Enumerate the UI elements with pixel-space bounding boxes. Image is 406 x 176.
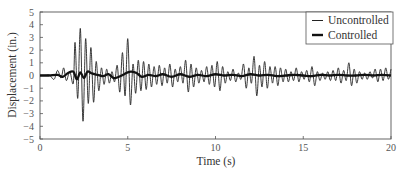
y-tick-label: 3 — [29, 32, 34, 43]
y-tick-label: −2 — [23, 95, 34, 106]
y-tick-label: 5 — [29, 7, 34, 18]
chart-canvas: 543210−1−2−3−4−5 05101520 Displacement (… — [0, 0, 406, 176]
x-tick-label: 15 — [298, 142, 308, 153]
y-tick-label: 1 — [29, 57, 34, 68]
x-tick-label: 10 — [211, 142, 221, 153]
legend: Uncontrolled Controlled — [306, 12, 393, 44]
y-tick-label: 4 — [29, 19, 34, 30]
y-tick-label: 2 — [29, 45, 34, 56]
y-tick-label: −4 — [23, 121, 34, 132]
legend-label-controlled: Controlled — [328, 29, 377, 41]
y-axis-label: Displacement (in.) — [6, 32, 19, 118]
y-tick-label: −3 — [23, 108, 34, 119]
x-tick-label: 5 — [125, 142, 130, 153]
x-axis-label: Time (s) — [197, 155, 236, 168]
y-tick-label: −1 — [23, 83, 34, 94]
legend-label-uncontrolled: Uncontrolled — [328, 14, 389, 26]
displacement-chart: 543210−1−2−3−4−5 05101520 Displacement (… — [0, 0, 406, 176]
x-tick-label: 20 — [386, 142, 396, 153]
y-tick-label: −5 — [23, 134, 34, 145]
x-tick-label: 0 — [38, 142, 43, 153]
y-tick-label: 0 — [29, 70, 34, 81]
